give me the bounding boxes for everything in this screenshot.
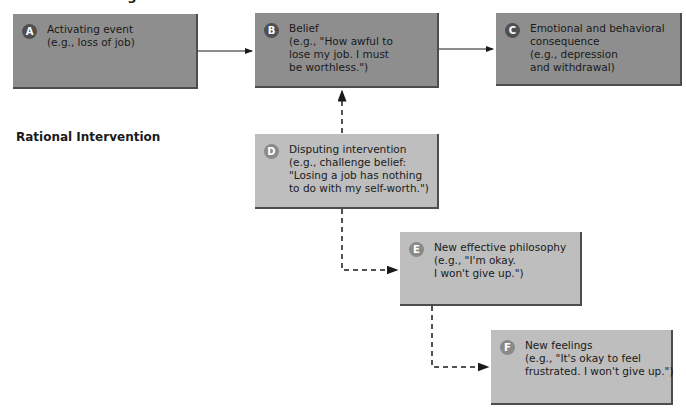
badge-d: D [264, 144, 279, 159]
badge-f: F [500, 340, 515, 355]
box-consequence: C Emotional and behavioral consequence (… [496, 13, 682, 86]
box-a-line: Activating event [47, 23, 190, 36]
box-f-line: New feelings [525, 339, 665, 352]
badge-e: E [409, 242, 424, 257]
box-b-line: be worthless.") [289, 61, 431, 74]
box-d-line: Disputing intervention [289, 143, 431, 156]
box-d-line: to do with my self-worth.") [289, 182, 431, 195]
box-f-line: frustrated. I won't give up.") [525, 365, 665, 378]
box-belief: B Belief (e.g., "How awful to lose my jo… [255, 13, 439, 88]
badge-b: B [264, 23, 279, 38]
box-new-philosophy: E New effective philosophy (e.g., "I'm o… [400, 232, 582, 306]
box-c-line: Emotional and behavioral [530, 22, 674, 35]
box-e-line: New effective philosophy [434, 241, 574, 254]
box-new-feelings: F New feelings (e.g., "It's okay to feel… [491, 330, 673, 405]
box-b-line: lose my job. I must [289, 48, 431, 61]
section-label-rational-intervention: Rational Intervention [16, 130, 160, 144]
box-b-line: (e.g., "How awful to [289, 35, 431, 48]
badge-c: C [505, 23, 520, 38]
box-e-line: (e.g., "I'm okay. [434, 254, 574, 267]
box-e-line: I won't give up.") [434, 267, 574, 280]
dashed-arrow-e-to-f [432, 306, 488, 367]
box-disputing-intervention: D Disputing intervention (e.g., challeng… [255, 134, 439, 209]
box-a-line: (e.g., loss of job) [47, 36, 190, 49]
box-d-line: "Losing a job has nothing [289, 169, 431, 182]
box-d-line: (e.g., challenge belief: [289, 156, 431, 169]
box-c-line: and withdrawal) [530, 61, 674, 74]
box-f-line: (e.g., "It's okay to feel [525, 352, 665, 365]
dashed-arrow-d-to-e [342, 209, 397, 270]
box-c-line: (e.g., depression [530, 48, 674, 61]
box-activating-event: A Activating event (e.g., loss of job) [13, 14, 198, 89]
badge-a: A [22, 24, 37, 39]
box-b-line: Belief [289, 22, 431, 35]
box-c-line: consequence [530, 35, 674, 48]
